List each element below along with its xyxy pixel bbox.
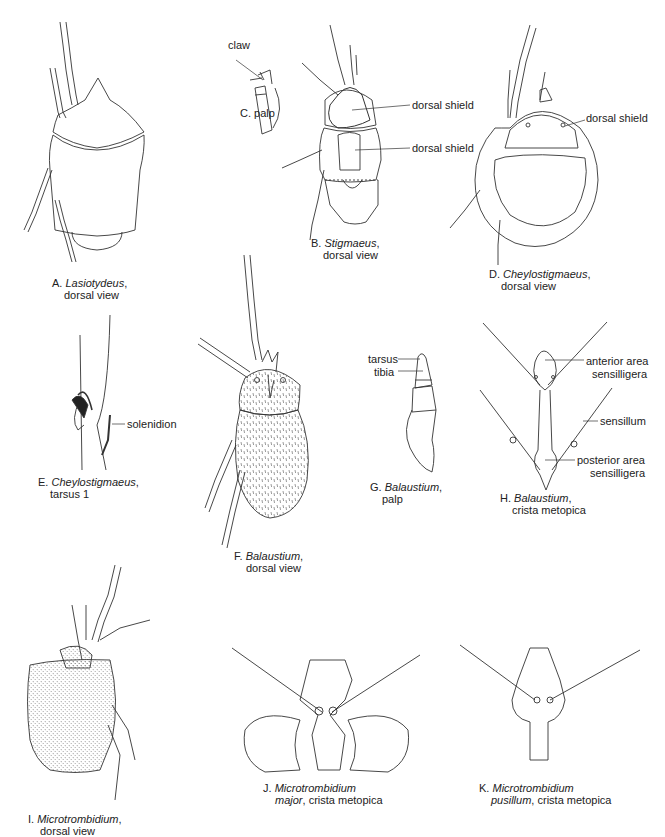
caption-c: C. palp: [240, 107, 275, 119]
figure-c-palp-drawing: [236, 60, 280, 134]
caption-f: F. Balaustium, dorsal view: [234, 550, 303, 574]
label-claw: claw: [228, 39, 250, 51]
caption-d: D. Cheylostigmaeus, dorsal view: [489, 268, 591, 292]
caption-j: J. Microtrombidium major, crista metopic…: [263, 782, 383, 806]
label-solenidion: solenidion: [127, 418, 177, 430]
figure-b-stigmaeus-drawing: [282, 25, 410, 240]
label-tarsus: tarsus: [368, 353, 398, 365]
label-sensilligera-1: sensilligera: [592, 368, 647, 380]
label-sensilligera-2: sensilligera: [590, 467, 645, 479]
caption-i: I. Microtrombidium, dorsal view: [28, 813, 122, 837]
figure-j-crista-metopica-drawing: [232, 648, 420, 772]
figure-e-tarsus-drawing: [72, 315, 125, 470]
caption-b: B. Stigmaeus, dorsal view: [311, 237, 380, 261]
label-sensillum: sensillum: [600, 415, 646, 427]
caption-h: H. Balaustium, crista metopica: [500, 492, 586, 516]
mite-illustrations: [0, 0, 665, 837]
caption-e: E. Cheylostigmaeus, tarsus 1: [38, 476, 139, 500]
label-anterior-area: anterior area: [586, 355, 648, 367]
caption-a: A. Lasiotydeus, dorsal view: [52, 277, 127, 301]
label-dorsal-shield-1: dorsal shield: [412, 99, 474, 111]
figure-a-lasiotydeus-drawing: [24, 22, 144, 262]
caption-k: K. Microtrombidium pusillum, crista meto…: [479, 782, 611, 806]
figure-k-crista-metopica-drawing: [460, 645, 640, 760]
label-dorsal-shield-2: dorsal shield: [412, 142, 474, 154]
figure-g-palp-drawing: [398, 354, 436, 472]
label-posterior-area: posterior area: [577, 454, 645, 466]
figure-f-balaustium-drawing: [198, 255, 308, 548]
label-dorsal-shield-d: dorsal shield: [586, 112, 648, 124]
label-tibia: tibia: [374, 366, 394, 378]
figure-i-microtrombidium-drawing: [28, 565, 151, 800]
caption-g: G. Balaustium, palp: [370, 481, 442, 505]
